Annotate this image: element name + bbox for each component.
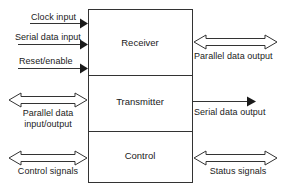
serial-data-output-arrow-icon xyxy=(193,97,256,107)
signal-label-parallel-data-input-output-line1: Parallel data xyxy=(2,108,94,119)
signal-label-status-signals: Status signals xyxy=(194,166,282,177)
status-signals-arrow-icon xyxy=(194,151,277,165)
signal-label-control-signals: Control signals xyxy=(2,166,94,177)
block-label-control: Control xyxy=(88,150,192,161)
signal-label-parallel-data-output: Parallel data output xyxy=(194,51,273,62)
signal-label-parallel-data-input-output-line2: input/output xyxy=(2,119,94,130)
uart-block-diagram: Receiver Transmitter Control Clock input… xyxy=(0,0,286,195)
signal-label-serial-data-input: Serial data input xyxy=(15,32,81,43)
block-label-receiver: Receiver xyxy=(88,37,192,48)
signal-label-clock-input: Clock input xyxy=(31,12,76,23)
control-signals-arrow-icon xyxy=(9,151,87,165)
block-label-transmitter: Transmitter xyxy=(88,96,192,107)
signal-label-reset-enable: Reset/enable xyxy=(19,56,73,67)
signal-label-serial-data-output: Serial data output xyxy=(194,107,265,118)
parallel-data-output-arrow-icon xyxy=(194,35,277,49)
parallel-data-input-output-arrow-icon xyxy=(9,93,87,107)
